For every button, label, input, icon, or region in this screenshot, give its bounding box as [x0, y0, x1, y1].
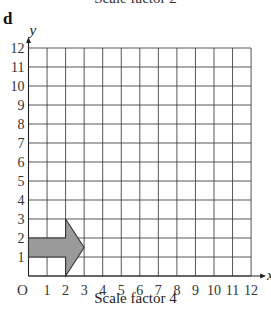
y-tick-label: 3 [18, 212, 25, 227]
y-tick-label: 7 [18, 136, 25, 151]
x-axis-arrow-icon [260, 274, 266, 279]
coordinate-grid: xy123456789101112123456789101112O [0, 0, 271, 318]
y-tick-label: 2 [18, 231, 25, 246]
scale-factor-caption: Scale factor 4 [0, 290, 271, 307]
y-tick-label: 6 [18, 155, 25, 170]
y-tick-label: 11 [11, 60, 24, 75]
y-tick-label: 5 [18, 174, 25, 189]
y-tick-label: 12 [11, 41, 25, 56]
y-tick-label: 9 [18, 98, 25, 113]
y-tick-label: 4 [18, 193, 25, 208]
y-tick-label: 8 [18, 117, 25, 132]
y-axis-label: y [28, 22, 37, 38]
y-tick-label: 10 [11, 79, 25, 94]
y-tick-label: 1 [18, 250, 25, 265]
x-axis-label: x [266, 267, 271, 283]
arrow-shape [29, 219, 85, 276]
